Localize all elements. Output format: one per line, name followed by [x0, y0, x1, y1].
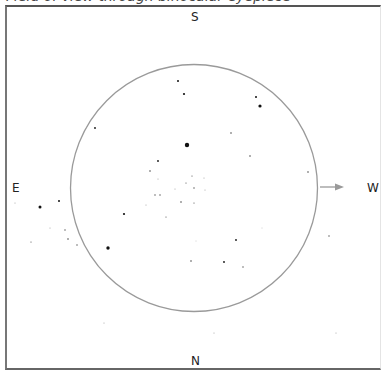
star [196, 241, 197, 242]
star [104, 323, 105, 324]
star [204, 178, 205, 179]
star [191, 175, 192, 176]
star [30, 241, 31, 242]
star [193, 187, 194, 188]
star [223, 261, 225, 263]
star [255, 96, 257, 98]
star [15, 203, 16, 204]
star [230, 132, 232, 134]
star [39, 206, 42, 209]
direction-label-south: S [191, 10, 199, 24]
west-direction-arrow [320, 184, 344, 191]
star [149, 170, 151, 172]
star [258, 104, 261, 107]
direction-label-west: W [367, 181, 379, 195]
star [67, 238, 69, 240]
star [154, 194, 155, 195]
star [235, 239, 237, 241]
star [76, 244, 77, 245]
star [159, 194, 160, 195]
direction-label-east: E [12, 181, 20, 195]
star [146, 205, 147, 206]
star [183, 93, 185, 95]
star [106, 246, 109, 249]
star [205, 190, 206, 191]
star-field [0, 0, 384, 373]
star [185, 143, 189, 147]
star [328, 235, 329, 236]
star [165, 216, 166, 217]
stars-group [15, 80, 337, 334]
star [123, 213, 125, 215]
star [94, 127, 96, 129]
star [307, 171, 309, 173]
star [262, 228, 263, 229]
arrowhead-icon [335, 184, 344, 191]
star [214, 333, 215, 334]
star [177, 80, 179, 82]
star [185, 182, 186, 183]
star [50, 228, 51, 229]
star [190, 260, 192, 262]
star [158, 179, 159, 180]
star [175, 189, 176, 190]
star [242, 266, 243, 267]
star [180, 201, 182, 203]
star [58, 200, 60, 202]
star [157, 160, 159, 162]
direction-label-north: N [191, 354, 200, 368]
star [249, 155, 251, 157]
star [193, 202, 194, 203]
star [336, 333, 337, 334]
star [64, 229, 65, 230]
